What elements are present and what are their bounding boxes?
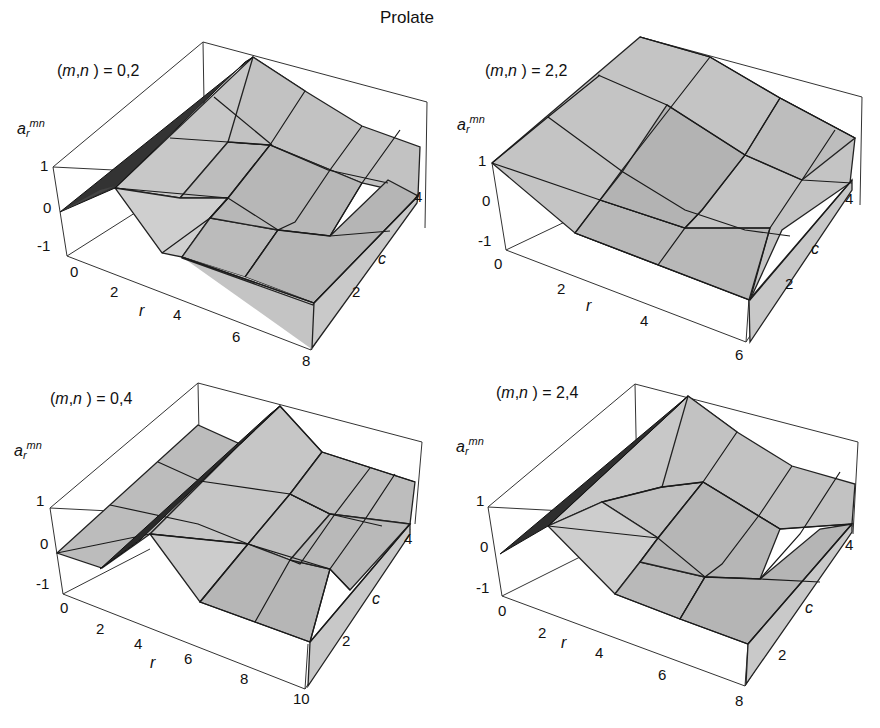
x-tick: 4 <box>595 644 603 661</box>
y-tick: 4 <box>404 530 412 547</box>
z-axis-label: armn <box>17 120 45 138</box>
x-axis-label: r <box>150 654 155 672</box>
y-tick: 4 <box>845 536 853 553</box>
x-tick: 8 <box>735 692 743 709</box>
x-tick: 0 <box>494 255 502 272</box>
x-tick: 2 <box>538 624 546 641</box>
y-tick: 4 <box>845 190 853 207</box>
x-tick: 6 <box>658 666 666 683</box>
y-tick: 2 <box>785 275 793 292</box>
z-tick: -1 <box>36 575 49 592</box>
z-axis-label: armn <box>457 116 485 134</box>
x-tick: 4 <box>134 635 142 652</box>
panel-label-2-2: (m,n ) = 2,2 <box>485 62 567 80</box>
x-axis-label: r <box>139 302 144 320</box>
x-tick: 2 <box>557 280 565 297</box>
z-tick: 0 <box>40 535 48 552</box>
z-tick: 1 <box>478 152 486 169</box>
plot-panel-2-2: (m,n ) = 2,2 armn 1 0 -1 0 2 4 6 r 2 4 c <box>440 0 880 364</box>
surface-plot-2-2 <box>440 0 880 364</box>
y-axis-label: c <box>372 590 380 608</box>
panel-label-0-2: (m,n ) = 0,2 <box>57 62 139 80</box>
x-tick: 0 <box>70 263 78 280</box>
plot-panel-0-2: (m,n ) = 0,2 armn 1 0 -1 0 2 4 6 8 r 2 4… <box>0 0 440 364</box>
y-tick: 2 <box>352 283 360 300</box>
y-axis-label: c <box>805 599 813 617</box>
x-tick: 2 <box>96 620 104 637</box>
z-tick: -1 <box>478 232 491 249</box>
surface-plot-0-4 <box>0 364 440 728</box>
surface-plot-0-2 <box>0 0 440 364</box>
y-axis-label: c <box>378 250 386 268</box>
z-tick: 1 <box>476 492 484 509</box>
z-tick: 1 <box>36 492 44 509</box>
x-tick: 6 <box>184 650 192 667</box>
y-axis-label: c <box>811 240 819 258</box>
z-axis-label: armn <box>14 442 42 460</box>
x-tick: 10 <box>293 690 310 707</box>
z-axis-label: armn <box>456 438 484 456</box>
panel-label-0-4: (m,n ) = 0,4 <box>50 390 132 408</box>
x-tick: 4 <box>640 312 648 329</box>
x-tick: 6 <box>735 346 743 363</box>
plot-panel-2-4: (m,n ) = 2,4 armn 1 0 -1 0 2 4 6 8 r 2 4… <box>440 364 880 728</box>
z-tick: 1 <box>40 157 48 174</box>
x-tick: 6 <box>232 328 240 345</box>
z-tick: -1 <box>37 237 50 254</box>
z-tick: 0 <box>482 192 490 209</box>
x-axis-label: r <box>586 297 591 315</box>
y-tick: 4 <box>414 188 422 205</box>
x-tick: 0 <box>60 599 68 616</box>
y-tick: 2 <box>778 646 786 663</box>
x-tick: 4 <box>173 306 181 323</box>
z-tick: -1 <box>476 579 489 596</box>
plot-panel-0-4: (m,n ) = 0,4 armn 1 0 -1 0 2 4 6 8 10 r … <box>0 364 440 728</box>
x-tick: 0 <box>498 602 506 619</box>
panel-label-2-4: (m,n ) = 2,4 <box>496 384 578 402</box>
x-tick: 8 <box>240 670 248 687</box>
y-tick: 2 <box>342 632 350 649</box>
z-tick: 0 <box>43 199 51 216</box>
x-tick: 2 <box>110 283 118 300</box>
z-tick: 0 <box>480 538 488 555</box>
x-axis-label: r <box>561 634 566 652</box>
